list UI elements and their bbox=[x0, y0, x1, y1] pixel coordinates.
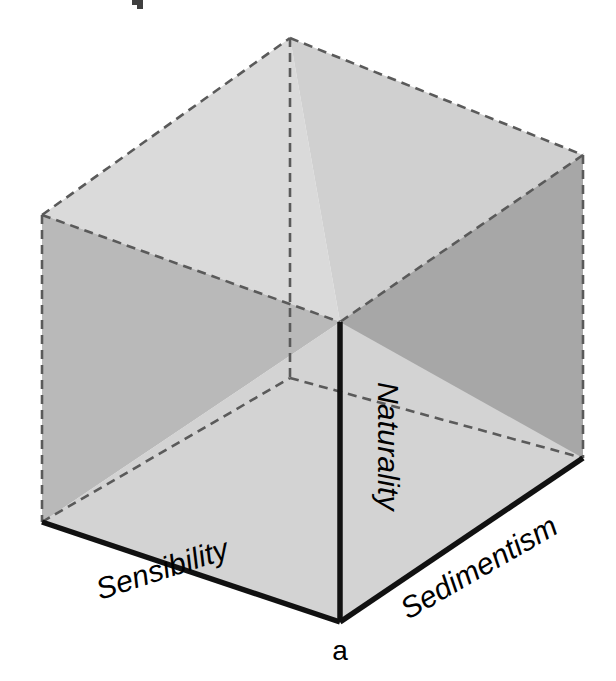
axis-label-naturality: Naturality bbox=[372, 382, 405, 513]
origin-vertex-label: a bbox=[332, 635, 348, 666]
cube-diagram: Sensibility Naturality Sedimentism a bbox=[0, 0, 616, 681]
scan-artifact-mark bbox=[132, 0, 143, 9]
figure-root: Sensibility Naturality Sedimentism a bbox=[0, 0, 616, 681]
